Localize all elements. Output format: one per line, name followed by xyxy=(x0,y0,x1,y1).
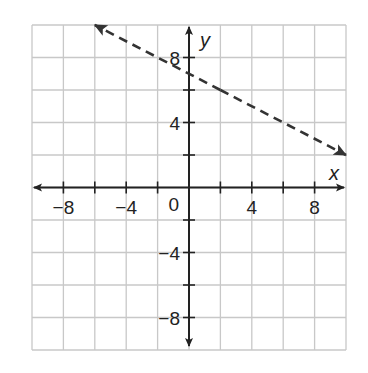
y-tick-label: −8 xyxy=(158,308,180,329)
x-tick-label: 4 xyxy=(247,197,258,218)
origin-label: 0 xyxy=(168,194,179,215)
x-tick-label: 8 xyxy=(309,197,320,218)
y-tick-label: 4 xyxy=(169,113,180,134)
y-axis-label: y xyxy=(198,29,211,51)
tick-labels: −8−44884−4−80xy xyxy=(53,29,340,329)
x-axis-label: x xyxy=(328,162,340,184)
x-tick-label: −4 xyxy=(115,197,137,218)
x-tick-label: −8 xyxy=(53,197,75,218)
y-tick-label: −4 xyxy=(158,243,180,264)
coordinate-plane: −8−44884−4−80xy xyxy=(0,0,368,373)
